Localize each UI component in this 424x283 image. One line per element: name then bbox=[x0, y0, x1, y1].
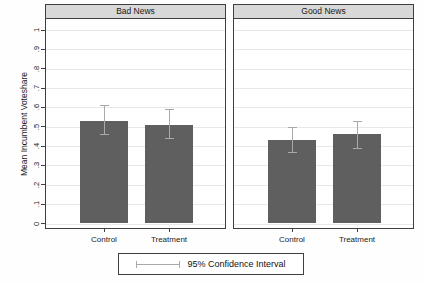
confidence-interval bbox=[292, 127, 293, 152]
y-tick-label: 1 bbox=[32, 19, 42, 41]
category-label: Treatment bbox=[327, 235, 387, 244]
gridline bbox=[46, 204, 225, 205]
y-axis-title: Mean Incumbent Voteshare bbox=[18, 24, 30, 224]
ci-cap bbox=[353, 121, 362, 122]
x-tick bbox=[104, 229, 105, 232]
gridline bbox=[234, 224, 413, 225]
gridline bbox=[46, 69, 225, 70]
y-tick-label: .1 bbox=[32, 193, 42, 215]
category-label: Treatment bbox=[139, 235, 199, 244]
x-tick bbox=[357, 229, 358, 232]
gridline bbox=[46, 88, 225, 89]
gridline bbox=[234, 204, 413, 205]
category-label: Control bbox=[74, 235, 134, 244]
ci-cap bbox=[100, 134, 109, 135]
ci-cap bbox=[100, 105, 109, 106]
ci-cap bbox=[165, 138, 174, 139]
gridline bbox=[234, 30, 413, 31]
gridline bbox=[46, 107, 225, 108]
gridline bbox=[234, 165, 413, 166]
panel-bad-news: Bad NewsControlTreatment bbox=[45, 4, 226, 229]
confidence-interval bbox=[357, 121, 358, 148]
x-tick bbox=[292, 229, 293, 232]
gridline bbox=[234, 69, 413, 70]
ci-cap bbox=[165, 109, 174, 110]
y-tick-label: .9 bbox=[32, 38, 42, 60]
x-tick bbox=[169, 229, 170, 232]
gridline bbox=[46, 127, 225, 128]
ci-cap bbox=[353, 148, 362, 149]
plot-area bbox=[233, 19, 414, 229]
bar-treatment bbox=[145, 125, 193, 224]
gridline bbox=[234, 88, 413, 89]
y-tick-label: .8 bbox=[32, 58, 42, 80]
legend-label: 95% Confidence Interval bbox=[187, 259, 285, 269]
gridline bbox=[46, 30, 225, 31]
gridline bbox=[234, 107, 413, 108]
y-tick-label: .5 bbox=[32, 116, 42, 138]
plot-area bbox=[45, 19, 226, 229]
gridline bbox=[234, 185, 413, 186]
gridline bbox=[46, 185, 225, 186]
ci-cap bbox=[288, 152, 297, 153]
gridline bbox=[234, 127, 413, 128]
y-tick-label: .7 bbox=[32, 77, 42, 99]
legend: 95% Confidence Interval bbox=[118, 253, 304, 275]
confidence-interval bbox=[169, 109, 170, 138]
error-bar-icon bbox=[136, 260, 180, 269]
bar-control bbox=[80, 121, 128, 224]
y-tick-label: .4 bbox=[32, 135, 42, 157]
y-tick-label: .2 bbox=[32, 174, 42, 196]
gridline bbox=[46, 224, 225, 225]
y-tick-label: .6 bbox=[32, 96, 42, 118]
confidence-interval bbox=[104, 105, 105, 134]
y-tick-label: .3 bbox=[32, 154, 42, 176]
gridline bbox=[46, 165, 225, 166]
gridline bbox=[46, 146, 225, 147]
panel-good-news: Good NewsControlTreatment bbox=[233, 4, 414, 229]
panel-title: Bad News bbox=[45, 4, 226, 19]
ci-cap bbox=[288, 127, 297, 128]
gridline bbox=[234, 146, 413, 147]
figure: Mean Incumbent Voteshare 0.1.2.3.4.5.6.7… bbox=[0, 0, 424, 283]
category-label: Control bbox=[262, 235, 322, 244]
y-tick-label: 0 bbox=[32, 213, 42, 235]
panel-title: Good News bbox=[233, 4, 414, 19]
gridline bbox=[46, 49, 225, 50]
gridline bbox=[234, 49, 413, 50]
